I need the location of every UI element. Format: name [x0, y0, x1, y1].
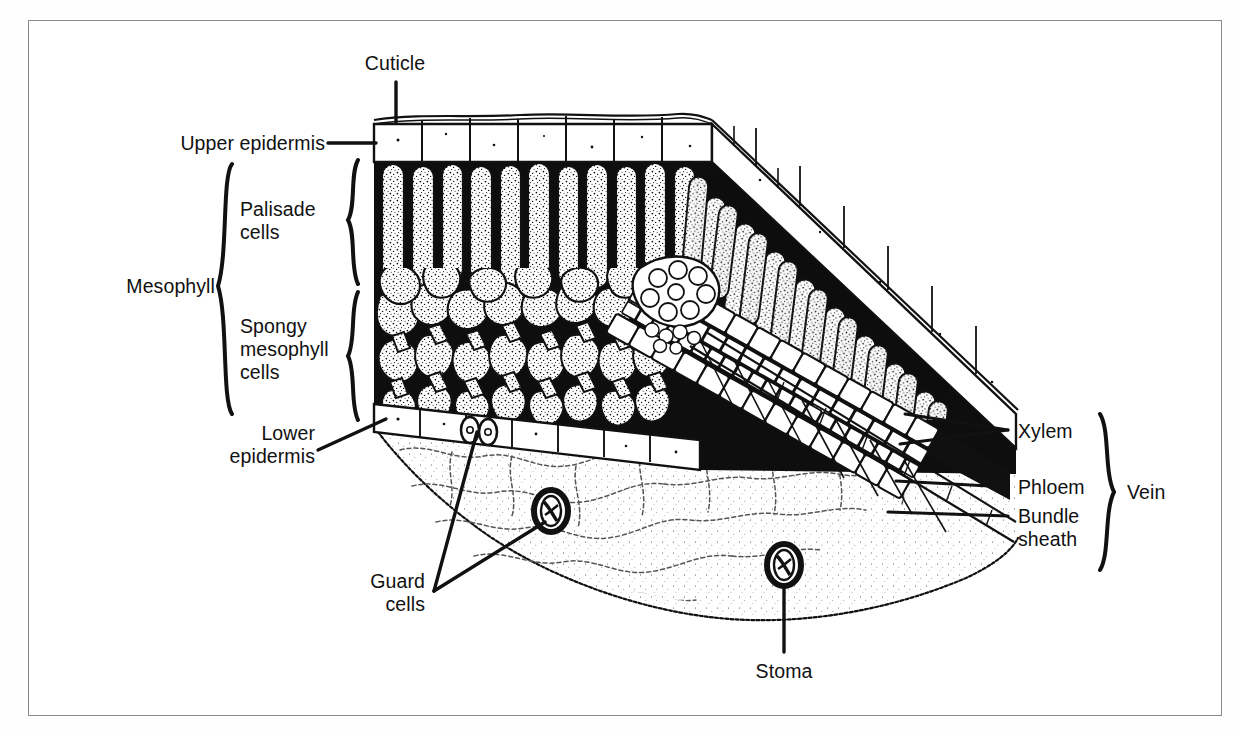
figure-page: Cuticle Upper epidermis Mesophyll Palisa…: [0, 0, 1236, 733]
label-palisade-cells: Palisade cells: [240, 198, 350, 244]
label-upper-epidermis: Upper epidermis: [125, 132, 325, 155]
label-phloem: Phloem: [1018, 476, 1118, 499]
stoma-lower-right: [767, 544, 801, 586]
label-spongy-mesophyll-cells: Spongy mesophyll cells: [240, 315, 360, 384]
leaf-cross-section-illustration: [0, 0, 1236, 733]
label-mesophyll: Mesophyll: [60, 275, 215, 298]
brace-mesophyll: [218, 164, 232, 414]
label-cuticle: Cuticle: [345, 52, 445, 75]
leader-lower-epidermis: [318, 419, 386, 450]
label-vein: Vein: [1127, 481, 1207, 504]
label-xylem: Xylem: [1018, 420, 1118, 443]
label-guard-cells: Guard cells: [260, 570, 425, 616]
label-stoma: Stoma: [734, 660, 834, 683]
label-lower-epidermis: Lower epidermis: [140, 422, 315, 468]
label-bundle-sheath: Bundle sheath: [1018, 505, 1118, 551]
